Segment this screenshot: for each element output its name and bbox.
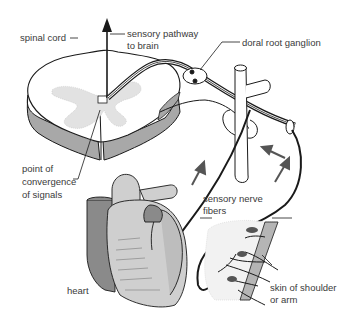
label-sensory-pathway-line1: sensory pathway bbox=[127, 28, 198, 39]
label-skin-line1: skin of shoulder bbox=[270, 282, 337, 293]
label-sensory-nerve-line1: sensory nerve bbox=[203, 193, 263, 204]
label-sensory-nerve-line2: fibers bbox=[203, 205, 226, 216]
label-skin-line2: or arm bbox=[270, 294, 297, 305]
label-heart: heart bbox=[67, 285, 89, 296]
label-point-of-convergence-line2: convergence bbox=[22, 176, 76, 187]
sympathetic-ganglion bbox=[223, 65, 270, 183]
skin-of-shoulder-illustration bbox=[205, 220, 278, 305]
label-spinal-cord: spinal cord bbox=[20, 32, 66, 43]
referred-pain-diagram bbox=[0, 0, 354, 322]
label-sensory-pathway-line2: to brain bbox=[127, 40, 159, 51]
label-dorsal-root-ganglion: doral root ganglion bbox=[242, 37, 321, 48]
label-point-of-convergence-line3: of signals bbox=[22, 189, 62, 200]
heart-illustration bbox=[87, 174, 187, 307]
spinal-cord bbox=[27, 50, 180, 160]
label-point-of-convergence-line1: point of bbox=[22, 163, 53, 174]
